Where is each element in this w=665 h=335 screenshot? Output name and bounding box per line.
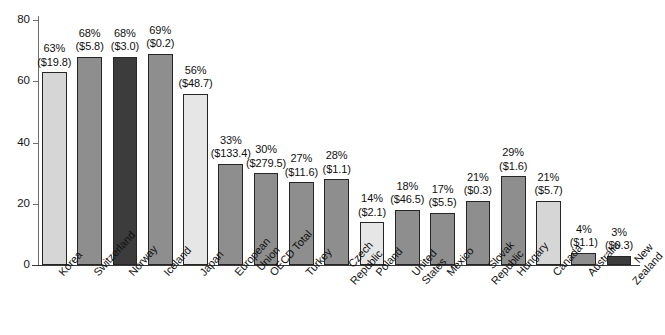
bar-slot: 18%($46.5) [395, 0, 420, 265]
bar[interactable] [77, 57, 102, 265]
bar-amount-label: ($0.3) [464, 184, 492, 198]
bar-slot: 63%($19.8) [42, 0, 67, 265]
bar-value-label: 63%($19.8) [37, 42, 71, 69]
bar-slot: 69%($0.2) [148, 0, 173, 265]
bar-slot: 56%($48.7) [183, 0, 208, 265]
bar-value-label: 33%($133.4) [211, 134, 251, 161]
y-axis-tick-label: 0 [4, 259, 30, 270]
bar-percent-label: 69% [146, 24, 174, 38]
bar-amount-label: ($19.8) [37, 56, 71, 70]
bar-slot: 68%($5.8) [77, 0, 102, 265]
y-axis-tick-mark [33, 204, 38, 205]
bar-amount-label: ($279.5) [246, 157, 286, 171]
bar[interactable] [42, 72, 67, 265]
bar-percent-label: 21% [534, 171, 562, 185]
y-axis-tick-label: 20 [4, 198, 30, 209]
bar-slot: 14%($2.1) [360, 0, 385, 265]
bar-percent-label: 14% [358, 192, 386, 206]
bar-amount-label: ($3.0) [111, 40, 139, 54]
bar-slot: 68%($3.0) [113, 0, 138, 265]
y-axis-tick-label: 40 [4, 137, 30, 148]
bar-value-label: 21%($0.3) [464, 171, 492, 198]
bar-percent-label: 56% [178, 64, 212, 78]
y-axis-tick-label: 60 [4, 75, 30, 86]
bar-slot: 17%($5.5) [430, 0, 455, 265]
bar[interactable] [218, 164, 243, 265]
bar-percent-label: 21% [464, 171, 492, 185]
bar-value-label: 30%($279.5) [246, 143, 286, 170]
bar-amount-label: ($5.8) [76, 40, 104, 54]
y-axis-tick-mark [33, 81, 38, 82]
bar-slot: 21%($5.7) [536, 0, 561, 265]
bar-percent-label: 28% [323, 149, 351, 163]
bar-amount-label: ($1.1) [323, 163, 351, 177]
bar-value-label: 18%($46.5) [390, 180, 424, 207]
bar-percent-label: 4% [570, 223, 598, 237]
bar-slot: 27%($11.6) [289, 0, 314, 265]
bar-percent-label: 68% [111, 27, 139, 41]
bar-value-label: 29%($1.6) [499, 146, 527, 173]
bar-value-label: 68%($3.0) [111, 27, 139, 54]
y-axis-tick-mark [33, 20, 38, 21]
bar-percent-label: 18% [390, 180, 424, 194]
bar-percent-label: 3% [605, 226, 633, 240]
bar-slot: 21%($0.3) [466, 0, 491, 265]
bar[interactable] [183, 94, 208, 266]
bar-slot: 30%($279.5) [254, 0, 279, 265]
bar-amount-label: ($11.6) [285, 166, 318, 180]
bar-percent-label: 27% [285, 152, 318, 166]
bar-percent-label: 17% [429, 183, 457, 197]
x-axis-line [32, 265, 640, 266]
bar-percent-label: 33% [211, 134, 251, 148]
bar-value-label: 17%($5.5) [429, 183, 457, 210]
bar-value-label: 27%($11.6) [285, 152, 318, 179]
bar-percent-label: 68% [76, 27, 104, 41]
bar-amount-label: ($1.6) [499, 160, 527, 174]
bar-amount-label: ($0.2) [146, 37, 174, 51]
bar[interactable] [148, 54, 173, 265]
bar-slot: 33%($133.4) [218, 0, 243, 265]
bar-value-label: 28%($1.1) [323, 149, 351, 176]
y-axis-tick-label: 80 [4, 14, 30, 25]
bar-amount-label: ($48.7) [178, 77, 212, 91]
bar-amount-label: ($2.1) [358, 206, 386, 220]
bar-percent-label: 63% [37, 42, 71, 56]
bar-amount-label: ($5.7) [534, 184, 562, 198]
bar-value-label: 56%($48.7) [178, 64, 212, 91]
bar-amount-label: ($5.5) [429, 196, 457, 210]
bar-amount-label: ($46.5) [390, 193, 424, 207]
bar-value-label: 14%($2.1) [358, 192, 386, 219]
bar-slot: 29%($1.6) [501, 0, 526, 265]
bar-amount-label: ($133.4) [211, 147, 251, 161]
bar-value-label: 21%($5.7) [534, 171, 562, 198]
bar-slot: 3%($0.3) [607, 0, 632, 265]
bar-percent-label: 30% [246, 143, 286, 157]
y-axis-tick-mark [33, 143, 38, 144]
bar-slot: 28%($1.1) [324, 0, 349, 265]
bar-slot: 4%($1.1) [571, 0, 596, 265]
bar-value-label: 69%($0.2) [146, 24, 174, 51]
bar-percent-label: 29% [499, 146, 527, 160]
bar-value-label: 68%($5.8) [76, 27, 104, 54]
